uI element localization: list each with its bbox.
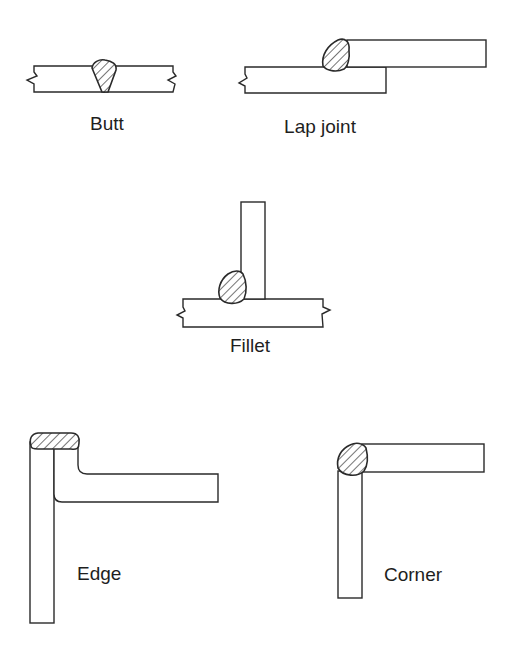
corner-weld-bead [338, 443, 368, 475]
lap-label: Lap joint [284, 116, 357, 137]
lap-joint: Lap joint [239, 39, 486, 137]
lap-lower-plate [239, 67, 386, 93]
edge-bent-plate [54, 442, 218, 502]
lap-upper-plate [347, 40, 486, 67]
butt-label: Butt [90, 113, 125, 134]
fillet-label: Fillet [230, 335, 271, 356]
fillet-base-plate [177, 299, 330, 327]
edge-weld-bead [30, 433, 79, 449]
corner-label: Corner [384, 564, 443, 585]
edge-vertical-plate [30, 442, 54, 623]
edge-label: Edge [77, 563, 121, 584]
corner-vertical-plate [338, 471, 362, 598]
corner-joint: Corner [338, 443, 484, 598]
fillet-joint: Fillet [177, 202, 330, 356]
weld-joints-diagram: Butt Lap joint Fillet Edge Corner [0, 0, 512, 661]
edge-joint: Edge [30, 433, 218, 623]
lap-weld-bead [323, 39, 350, 71]
butt-joint: Butt [27, 60, 176, 134]
fillet-weld-bead [219, 271, 246, 303]
corner-horizontal-plate [362, 444, 484, 472]
